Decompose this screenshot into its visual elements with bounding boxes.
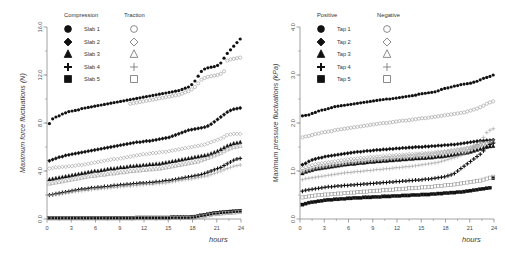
legend-column-title-2: Negative [377, 12, 400, 18]
svg-text:12.0: 12.0 [37, 70, 43, 81]
legend-item-label: Tap 1 [337, 26, 351, 32]
legend-symbol-open-triangle-icon [381, 48, 393, 60]
pressure-x-axis-title: hours [462, 235, 481, 244]
svg-text:24: 24 [491, 225, 497, 231]
svg-text:8.0: 8.0 [37, 119, 43, 127]
svg-text:21: 21 [467, 225, 473, 231]
svg-text:15: 15 [418, 225, 424, 231]
legend-symbol-filled-triangle-icon [62, 48, 74, 60]
legend-symbol-open-plus-icon [381, 61, 393, 73]
svg-text:18: 18 [189, 225, 195, 231]
svg-text:21: 21 [214, 225, 220, 231]
legend-item-label: Tap 3 [337, 51, 351, 57]
svg-text:3: 3 [323, 225, 326, 231]
legend-item-label: Slab 1 [84, 26, 100, 32]
legend-item-label: Slab 3 [84, 51, 100, 57]
svg-text:12: 12 [394, 225, 400, 231]
legend-symbol-open-diamond-icon [381, 36, 393, 48]
svg-text:2.0: 2.0 [290, 119, 296, 127]
legend-column-title-1: Positive [317, 12, 337, 18]
force-y-axis-title: Maximum force fluctuations (N) [19, 73, 26, 173]
legend-column-title-1: Compression [64, 12, 98, 18]
chart-panel-pressure: 0.01.02.03.04.003691215182124 Maximum pr… [253, 0, 506, 262]
legend-item-label: Tap 4 [337, 64, 351, 70]
legend-symbol-filled-plus-icon [315, 61, 327, 73]
legend-item-label: Slab 2 [84, 39, 100, 45]
pressure-y-axis-title: Maximum pressure fluctuations (kPa) [272, 63, 279, 182]
legend-item-label: Tap 2 [337, 39, 351, 45]
legend-symbol-filled-circle-icon [62, 23, 74, 35]
legend-symbol-open-square-icon [128, 73, 140, 85]
legend-symbol-open-diamond-icon [128, 36, 140, 48]
svg-text:12: 12 [141, 225, 147, 231]
svg-text:4.0: 4.0 [37, 167, 43, 175]
svg-text:4.0: 4.0 [290, 23, 296, 31]
svg-text:18: 18 [442, 225, 448, 231]
legend-column-title-2: Traction [124, 12, 145, 18]
svg-text:9: 9 [118, 225, 121, 231]
legend-symbol-open-plus-icon [128, 61, 140, 73]
legend-symbol-open-circle-icon [128, 23, 140, 35]
svg-text:0: 0 [298, 225, 301, 231]
force-x-axis-title: hours [209, 235, 228, 244]
legend-symbol-open-square-icon [381, 73, 393, 85]
svg-text:6: 6 [347, 225, 350, 231]
svg-text:24: 24 [238, 225, 244, 231]
legend-symbol-filled-diamond-icon [62, 36, 74, 48]
legend-item-label: Slab 5 [84, 76, 100, 82]
legend-symbol-open-circle-icon [381, 23, 393, 35]
svg-text:1.0: 1.0 [290, 167, 296, 175]
legend-symbol-filled-circle-icon [315, 23, 327, 35]
legend-symbol-filled-plus-icon [62, 61, 74, 73]
legend-symbol-filled-square-icon [315, 73, 327, 85]
legend-symbol-filled-square-icon [62, 73, 74, 85]
chart-panel-force: 0.04.08.012.016.003691215182124 Maximum … [0, 0, 253, 262]
svg-text:9: 9 [371, 225, 374, 231]
legend-item-label: Slab 4 [84, 64, 100, 70]
svg-text:15: 15 [165, 225, 171, 231]
svg-text:6: 6 [94, 225, 97, 231]
svg-text:3: 3 [70, 225, 73, 231]
svg-text:0: 0 [45, 225, 48, 231]
svg-text:0.0: 0.0 [37, 215, 43, 223]
force-legend: CompressionTractionSlab 1Slab 2Slab 3Sla… [62, 12, 182, 90]
svg-text:3.0: 3.0 [290, 71, 296, 79]
svg-text:16.0: 16.0 [37, 22, 43, 33]
legend-symbol-open-triangle-icon [128, 48, 140, 60]
legend-symbol-filled-triangle-icon [315, 48, 327, 60]
legend-symbol-filled-diamond-icon [315, 36, 327, 48]
figure-container: 0.04.08.012.016.003691215182124 Maximum … [0, 0, 506, 262]
legend-item-label: Tap 5 [337, 76, 351, 82]
pressure-legend: PositiveNegativeTap 1Tap 2Tap 3Tap 4Tap … [315, 12, 435, 90]
svg-text:0.0: 0.0 [290, 215, 296, 223]
